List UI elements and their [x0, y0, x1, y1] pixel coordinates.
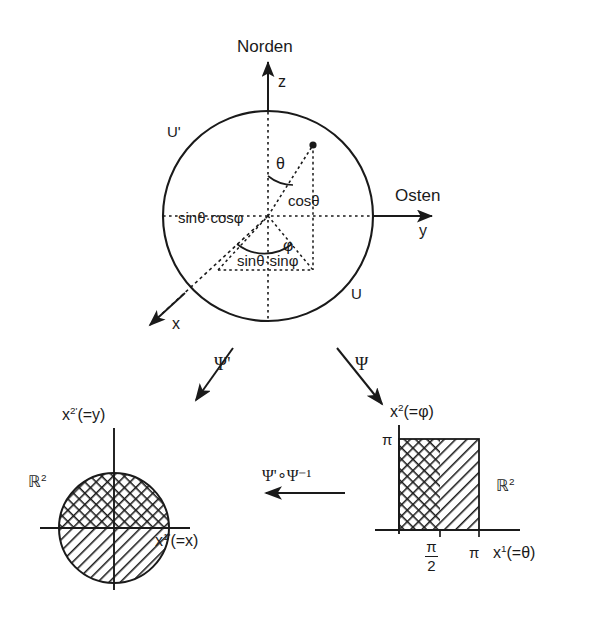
diagram-canvas — [0, 0, 593, 619]
label-right-space: ℝ2 — [496, 478, 515, 494]
label-map-psi-prime: Ψ' — [214, 355, 231, 373]
left-chart-group — [40, 428, 190, 590]
label-right-vertical-axis: x2(=φ) — [390, 404, 434, 420]
half-pi-denominator: 2 — [425, 558, 438, 574]
right-horizontal-axis-base: x — [493, 544, 501, 561]
half-pi-numerator: π — [425, 539, 438, 555]
label-map-psi: Ψ — [355, 355, 368, 373]
label-left-horizontal-axis: x1'(=x) — [155, 533, 198, 549]
square-left-crosshatch-fill — [399, 439, 440, 530]
left-vertical-axis-base: x — [62, 406, 70, 423]
label-tick-pi-horizontal: π — [469, 545, 479, 560]
left-horizontal-axis-paren: (=x) — [170, 532, 198, 549]
label-angle-theta: θ — [276, 156, 285, 172]
square-right-diagonal-fill — [440, 439, 479, 530]
right-vertical-axis-paren: (=φ) — [404, 403, 434, 420]
left-vertical-axis-paren: (=y) — [77, 406, 105, 423]
left-horizontal-axis-base: x — [155, 532, 163, 549]
label-component-cos-theta: cosθ — [288, 193, 320, 208]
label-tick-half-pi: π 2 — [425, 539, 438, 574]
label-chart-u-prime: U' — [167, 124, 181, 139]
label-chart-u: U — [351, 286, 362, 301]
label-osten: Osten — [395, 187, 440, 204]
label-component-sin-cos: sinθ·cosφ — [178, 210, 244, 225]
label-right-horizontal-axis: x1(=θ) — [493, 545, 535, 561]
theta-angle-arc — [268, 176, 293, 185]
left-space-exp: 2 — [41, 472, 47, 483]
label-left-space: ℝ2 — [28, 474, 47, 490]
left-space-symbol: ℝ — [28, 473, 41, 490]
math-diagram-figure: Norden z Osten y x U' U θ φ cosθ sinθ·co… — [0, 0, 593, 619]
label-transition-map: Ψ'∘Ψ⁻¹ — [262, 468, 311, 484]
right-space-exp: 2 — [509, 476, 515, 487]
right-space-symbol: ℝ — [496, 477, 509, 494]
label-axis-x: x — [172, 316, 180, 332]
right-vertical-axis-base: x — [390, 403, 398, 420]
right-horizontal-axis-paren: (=θ) — [507, 544, 536, 561]
label-axis-z: z — [278, 74, 286, 90]
label-left-vertical-axis: x2'(=y) — [62, 407, 105, 423]
label-component-sin-sin: sinθ·sinφ — [237, 253, 298, 268]
label-norden: Norden — [237, 38, 293, 55]
label-axis-y: y — [419, 223, 427, 239]
label-tick-pi-vertical: π — [382, 432, 392, 447]
